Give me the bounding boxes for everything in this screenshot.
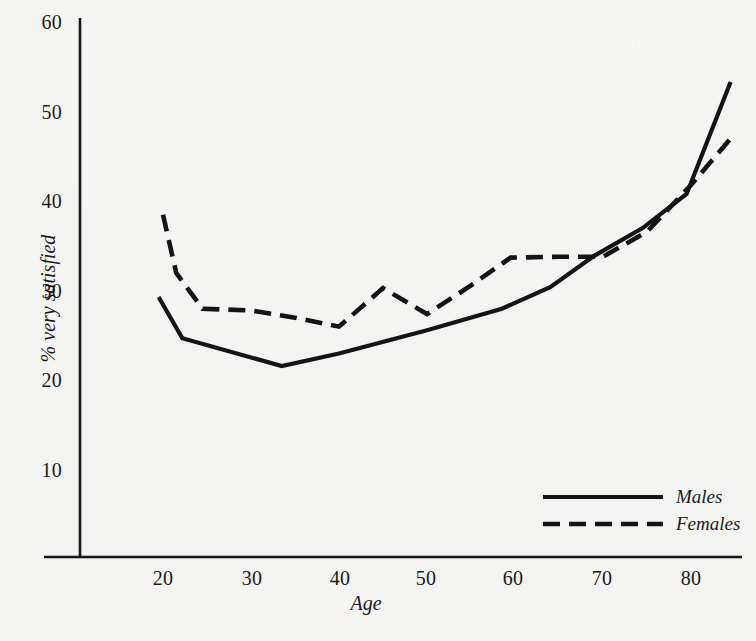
series-line-males <box>159 82 731 366</box>
x-tick-label-60: 60 <box>503 568 523 588</box>
y-tick-label-10: 10 <box>16 460 62 480</box>
y-axis-title: % very satisfied <box>37 199 60 399</box>
legend-label-males: Males <box>676 486 722 508</box>
x-axis-title: Age <box>0 592 744 615</box>
y-tick-label-60: 60 <box>16 12 62 32</box>
line-chart-canvas <box>0 0 756 641</box>
figure-page: 60 50 40 30 20 10 20 30 40 50 60 70 80 %… <box>0 0 756 641</box>
x-tick-label-30: 30 <box>242 568 262 588</box>
y-tick-label-50: 50 <box>16 102 62 122</box>
x-tick-label-40: 40 <box>330 568 350 588</box>
series-line-females <box>163 138 731 326</box>
x-tick-label-80: 80 <box>681 568 701 588</box>
x-tick-label-20: 20 <box>153 568 173 588</box>
x-tick-label-50: 50 <box>416 568 436 588</box>
legend-label-females: Females <box>676 513 740 535</box>
x-tick-label-70: 70 <box>592 568 612 588</box>
